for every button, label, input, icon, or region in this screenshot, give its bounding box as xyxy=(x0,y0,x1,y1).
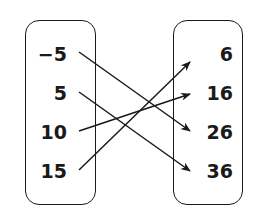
mapping-arrows xyxy=(0,0,255,223)
arrow-15-to-6 xyxy=(79,62,190,170)
arrow-5-to-36 xyxy=(79,92,190,171)
arrow-neg5-to-26 xyxy=(79,52,190,131)
arrow-10-to-16 xyxy=(79,94,190,131)
